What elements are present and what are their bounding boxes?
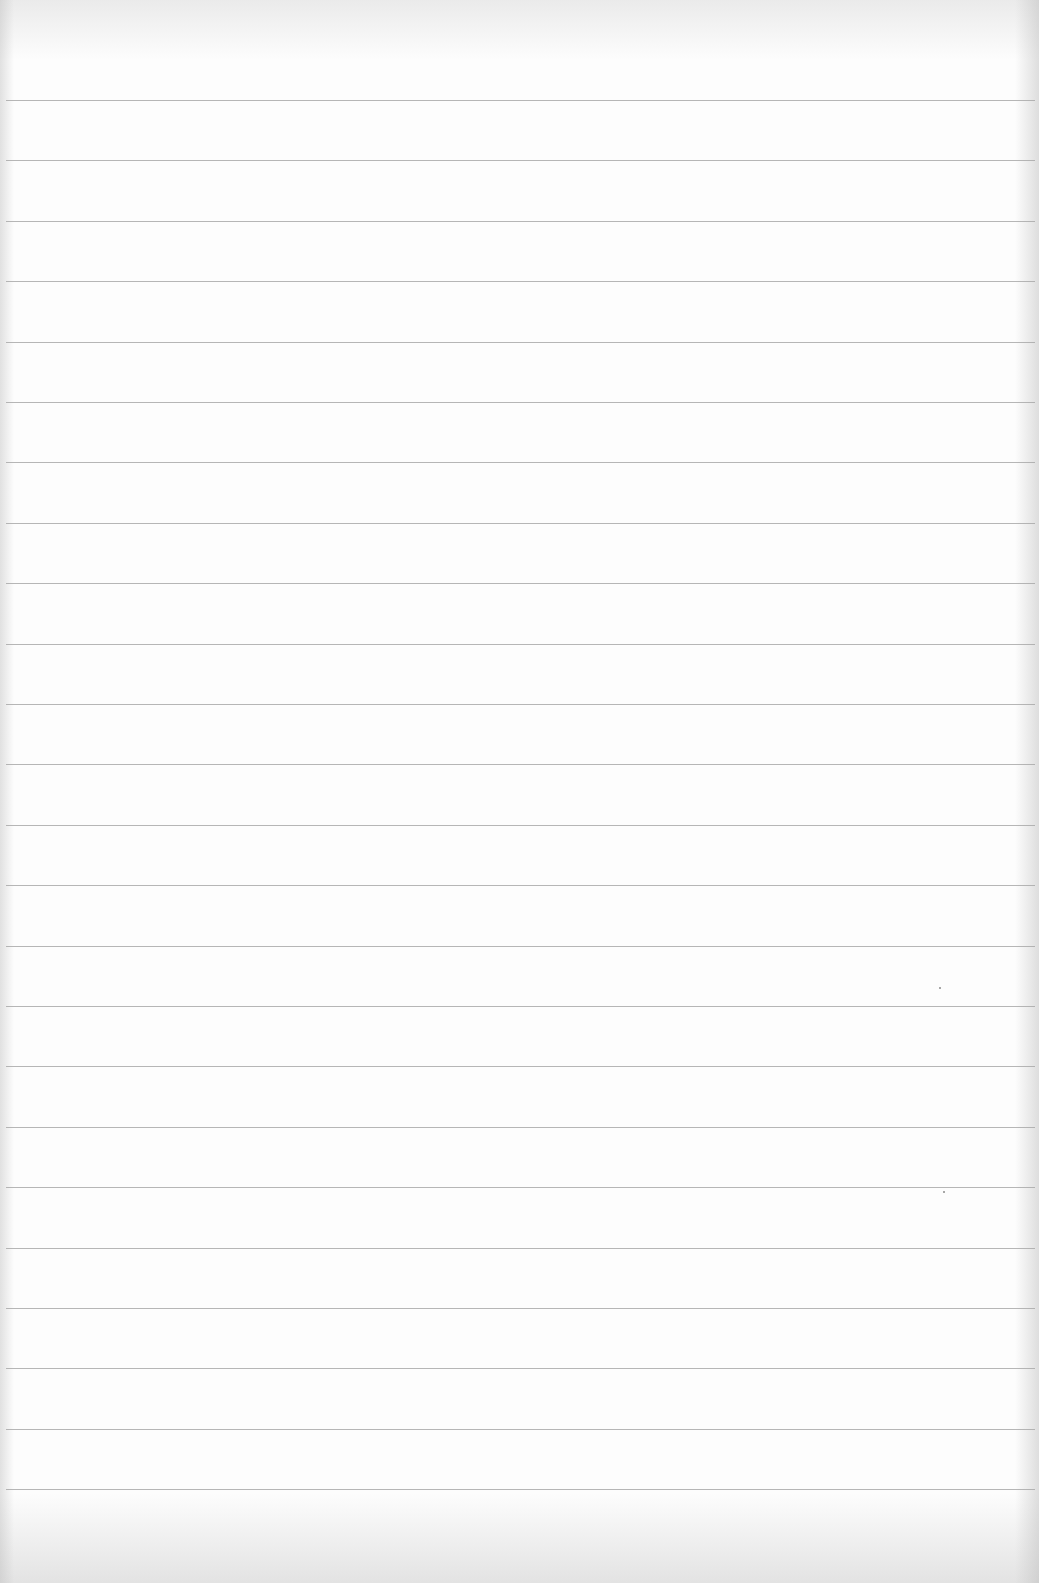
ruled-line — [6, 1308, 1035, 1309]
lined-paper-page — [0, 0, 1039, 1583]
ruled-line — [6, 764, 1035, 765]
ruled-line — [6, 704, 1035, 705]
scan-speck — [939, 987, 941, 989]
ruled-lines — [0, 0, 1039, 1583]
ruled-line — [6, 281, 1035, 282]
ruled-line — [6, 1006, 1035, 1007]
ruled-line — [6, 342, 1035, 343]
ruled-line — [6, 523, 1035, 524]
ruled-line — [6, 946, 1035, 947]
ruled-line — [6, 462, 1035, 463]
ruled-line — [6, 1429, 1035, 1430]
ruled-line — [6, 1127, 1035, 1128]
ruled-line — [6, 221, 1035, 222]
ruled-line — [6, 885, 1035, 886]
ruled-line — [6, 1187, 1035, 1188]
ruled-line — [6, 402, 1035, 403]
ruled-line — [6, 160, 1035, 161]
ruled-line — [6, 1066, 1035, 1067]
ruled-line — [6, 644, 1035, 645]
ruled-line — [6, 1489, 1035, 1490]
scan-speck — [943, 1191, 945, 1193]
ruled-line — [6, 1248, 1035, 1249]
ruled-line — [6, 100, 1035, 101]
ruled-line — [6, 825, 1035, 826]
ruled-line — [6, 1368, 1035, 1369]
ruled-line — [6, 583, 1035, 584]
